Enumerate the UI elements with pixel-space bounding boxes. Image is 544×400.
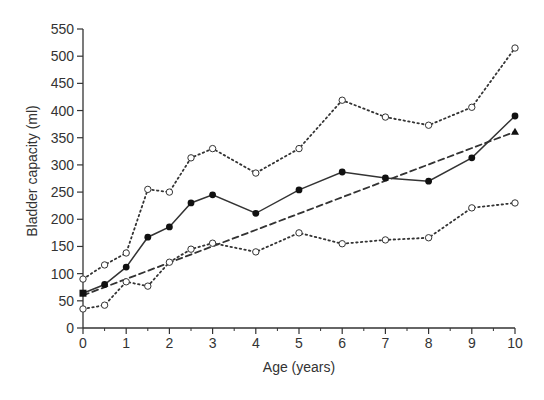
y-tick-label: 200 [51,211,75,227]
y-tick-label: 300 [51,157,75,173]
y-tick-label: 100 [51,266,75,282]
filled-circle-marker [123,264,130,271]
open-circle-marker [382,114,388,120]
x-tick-label: 8 [425,335,433,351]
series-line-linear [83,132,515,296]
filled-circle-marker [252,210,259,217]
open-circle-marker [425,235,431,241]
filled-circle-marker [382,175,389,182]
x-tick-label: 10 [507,335,523,351]
open-circle-marker [469,205,475,211]
open-circle-marker [339,241,345,247]
y-axis-title: Bladder capacity (ml) [24,105,40,237]
filled-circle-marker [144,234,151,241]
filled-circle-marker [188,200,195,207]
filled-circle-marker [512,113,519,120]
open-circle-marker [166,259,172,265]
x-tick-label: 7 [382,335,390,351]
series-line-upper [83,48,515,279]
filled-circle-marker [101,281,108,288]
y-tick-label: 450 [51,75,75,91]
open-circle-marker [145,186,151,192]
open-circle-marker [188,155,194,161]
x-tick-label: 0 [79,335,87,351]
open-circle-marker [382,237,388,243]
y-tick-label: 500 [51,48,75,64]
series-line-mean [83,116,515,293]
y-tick-label: 350 [51,130,75,146]
x-tick-label: 1 [122,335,130,351]
open-circle-marker [425,122,431,128]
x-axis-title: Age (years) [263,359,335,375]
x-tick-label: 6 [338,335,346,351]
open-circle-marker [80,306,86,312]
open-circle-marker [188,246,194,252]
open-circle-marker [296,230,302,236]
filled-circle-marker [339,169,346,176]
open-circle-marker [253,249,259,255]
bladder-capacity-chart: 0501001502002503003504004505005500123456… [0,0,544,400]
filled-circle-marker [296,187,303,194]
open-circle-marker [296,145,302,151]
open-circle-marker [166,189,172,195]
x-tick-label: 2 [166,335,174,351]
open-circle-marker [512,200,518,206]
y-tick-label: 150 [51,238,75,254]
open-circle-marker [145,283,151,289]
open-circle-marker [469,104,475,110]
y-tick-label: 250 [51,184,75,200]
filled-circle-marker [166,223,173,230]
open-circle-marker [209,145,215,151]
series-layer [80,45,520,312]
open-circle-marker [123,250,129,256]
x-tick-label: 4 [252,335,260,351]
y-tick-label: 400 [51,103,75,119]
open-circle-marker [101,262,107,268]
y-tick-label: 550 [51,21,75,37]
axes: 0501001502002503003504004505005500123456… [51,21,523,351]
filled-square-marker [80,290,87,297]
filled-circle-marker [468,154,475,161]
open-circle-marker [512,45,518,51]
x-tick-label: 9 [468,335,476,351]
filled-circle-marker [425,178,432,185]
filled-triangle-marker [511,128,519,135]
y-tick-label: 0 [66,320,74,336]
filled-circle-marker [209,191,216,198]
open-circle-marker [101,302,107,308]
open-circle-marker [80,276,86,282]
open-circle-marker [253,170,259,176]
open-circle-marker [209,240,215,246]
open-circle-marker [339,97,345,103]
x-tick-label: 3 [209,335,217,351]
x-tick-label: 5 [295,335,303,351]
series-line-lower [83,203,515,309]
open-circle-marker [123,279,129,285]
y-tick-label: 50 [58,293,74,309]
